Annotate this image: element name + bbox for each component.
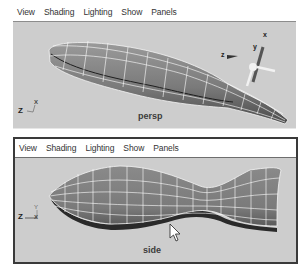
menu-show[interactable]: Show [121,7,142,17]
menu-panels[interactable]: Panels [153,143,178,153]
side-panel[interactable]: View Shading Lighting Show Panels [13,137,298,264]
svg-text:z: z [221,51,225,58]
menu-lighting[interactable]: Lighting [85,143,114,153]
axis-triad-icon: Z Y X [18,204,38,221]
side-menubar: View Shading Lighting Show Panels [15,139,296,158]
svg-text:Z: Z [18,212,23,221]
mouse-cursor-icon [170,224,180,241]
transform-manipulator-icon: x y z [221,31,275,86]
svg-text:Y: Y [34,204,38,210]
menu-lighting[interactable]: Lighting [83,7,112,17]
axis-triad-icon: Z X [18,99,38,115]
menu-panels[interactable]: Panels [151,7,176,17]
menu-view[interactable]: View [17,7,35,17]
menu-shading[interactable]: Shading [44,7,75,17]
svg-text:x: x [263,31,267,38]
svg-text:X: X [34,99,38,105]
menu-show[interactable]: Show [123,143,144,153]
persp-viewport[interactable]: x y z Z X persp [13,22,296,129]
persp-panel[interactable]: View Shading Lighting Show Panels [13,3,296,131]
camera-label: persp [138,111,163,121]
persp-menubar: View Shading Lighting Show Panels [13,3,296,22]
svg-text:Z: Z [18,106,23,115]
side-viewport[interactable]: Z Y X side [15,158,296,262]
svg-text:X: X [34,214,38,220]
menu-view[interactable]: View [19,143,37,153]
svg-text:y: y [253,43,257,51]
menu-shading[interactable]: Shading [46,143,77,153]
camera-label: side [143,245,161,255]
